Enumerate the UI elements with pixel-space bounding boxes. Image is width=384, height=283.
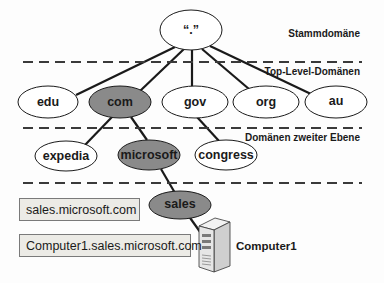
node-org: org (233, 86, 299, 118)
node-org-label: org (256, 95, 276, 109)
edge-root-com (140, 49, 184, 91)
node-microsoft-label: microsoft (121, 148, 179, 162)
level-label-second: Domänen zweiter Ebene (245, 132, 360, 143)
node-root: “.” (160, 10, 222, 50)
node-gov-label: gov (184, 95, 206, 109)
node-au: au (305, 86, 367, 118)
node-sales-label: sales (164, 197, 195, 211)
node-expedia-label: expedia (43, 149, 91, 163)
edge-root-org (202, 49, 249, 89)
server-icon (199, 218, 230, 272)
node-gov: gov (162, 86, 228, 118)
node-congress-label: congress (198, 148, 254, 162)
node-expedia: expedia (35, 141, 97, 171)
fqdn-box-sales: sales.microsoft.com (19, 198, 140, 221)
node-com: com (89, 86, 151, 118)
node-com-label: com (107, 95, 133, 109)
level-label-root: Stammdomäne (288, 28, 360, 39)
node-edu: edu (18, 86, 78, 118)
node-sales: sales (149, 191, 211, 219)
edge-com-expedia (85, 117, 112, 145)
node-au-label: au (329, 94, 344, 108)
level-label-tld: Top-Level-Domänen (265, 66, 360, 77)
node-congress: congress (195, 140, 257, 170)
node-microsoft: microsoft (118, 140, 180, 170)
node-edu-label: edu (37, 95, 59, 109)
node-root-label: “.” (183, 23, 199, 37)
fqdn-box-computer1: Computer1.sales.microsoft.com (19, 234, 191, 257)
host-label-computer1: Computer1 (236, 240, 297, 252)
edge-microsoft-sales (161, 169, 175, 193)
